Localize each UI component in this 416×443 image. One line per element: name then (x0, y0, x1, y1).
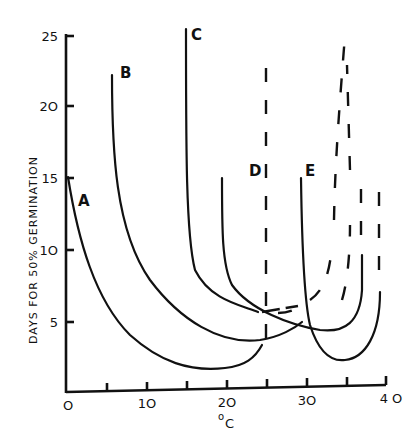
x-axis-title: o C (218, 411, 234, 431)
x-axis-unit: C (225, 416, 234, 431)
y-tick-label: 5 (50, 315, 58, 330)
y-tick-label: 25 (41, 29, 58, 44)
y-axis-title: DAYS FOR 50% GERMINATION (27, 156, 40, 344)
curve-label-b: B (120, 64, 131, 82)
curve-label-a: A (78, 192, 90, 210)
curve-c-horizontal-dash (262, 306, 298, 312)
curve-label-c: C (191, 26, 202, 44)
degree-symbol: o (218, 411, 224, 422)
x-tick-label: 4 O (380, 391, 403, 406)
x-tick-label: 3O (298, 393, 317, 408)
x-tick-label: 2O (218, 395, 237, 410)
curve-e (301, 175, 380, 360)
y-tick-label: 1O (39, 243, 58, 258)
y-tick-label: 15 (41, 171, 58, 186)
curve-a (68, 65, 266, 369)
axes (66, 34, 386, 393)
curve-label-e: E (305, 162, 315, 180)
x-tick-labels: O 1O 2O 3O 4 O (63, 391, 402, 413)
x-tick-label: O (63, 398, 73, 413)
x-tick-label: 1O (138, 396, 157, 411)
y-tick-labels: 25 2O 15 1O 5 (39, 29, 58, 330)
curve-label-d: D (249, 162, 261, 180)
y-tick-label: 2O (39, 99, 58, 114)
germination-chart: 25 2O 15 1O 5 O 1O 2O 3O 4 O DAYS FOR 50… (0, 0, 416, 443)
curve-b (112, 65, 350, 341)
